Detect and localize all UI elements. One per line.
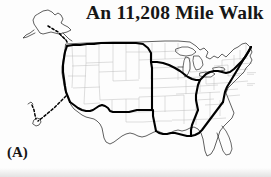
us-map-graphic [0,0,271,177]
hawaii-connector-branch [32,105,36,119]
figure-title: An 11,208 Mile Walk [86,1,268,25]
hawaii-connector [38,96,66,121]
figure-panel: An 11,208 Mile Walk (A) [0,0,271,177]
east-coast-city-labels [247,73,256,86]
florida-outline [217,126,232,155]
panel-label: (A) [7,143,28,161]
walk-route [63,43,251,136]
